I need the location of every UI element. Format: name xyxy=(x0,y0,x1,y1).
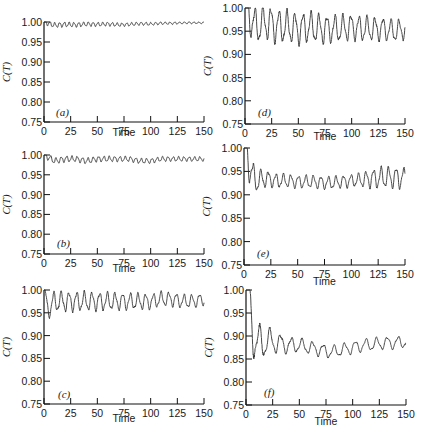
y-tick-label: 0.80 xyxy=(22,375,43,387)
y-tick-label: 1.00 xyxy=(222,142,243,154)
x-tick-label: 100 xyxy=(343,127,361,139)
y-tick-label: 0.85 xyxy=(223,72,244,84)
panel-label: (f) xyxy=(264,386,275,399)
y-axis-title: C(T) xyxy=(201,196,213,216)
y-tick-label: 0.80 xyxy=(22,96,43,108)
y-tick-label: 0.95 xyxy=(22,169,43,181)
y-tick-label: 0.80 xyxy=(223,95,244,107)
series-line xyxy=(245,8,405,47)
y-tick-label: 0.80 xyxy=(22,228,43,240)
x-tick-label: 125 xyxy=(169,257,187,269)
panel-label: (c) xyxy=(58,388,71,401)
x-tick-label: 0 xyxy=(41,407,47,419)
x-tick-label: 100 xyxy=(142,257,160,269)
y-tick-label: 0.75 xyxy=(224,399,245,411)
y-tick-label: 0.90 xyxy=(22,330,43,342)
x-tick-label: 150 xyxy=(195,407,213,419)
y-tick-label: 0.90 xyxy=(223,48,244,60)
panel-label: (e) xyxy=(257,247,270,260)
x-tick-label: 50 xyxy=(91,257,103,269)
y-tick-label: 0.75 xyxy=(222,259,243,271)
x-tick-label: 125 xyxy=(370,127,388,139)
y-tick-label: 1.00 xyxy=(22,16,43,28)
x-tick-label: 150 xyxy=(396,268,414,280)
y-tick-label: 0.95 xyxy=(224,307,245,319)
y-tick-label: 0.95 xyxy=(222,165,243,177)
y-tick-label: 0.90 xyxy=(222,189,243,201)
x-tick-label: 0 xyxy=(241,268,247,280)
y-tick-label: 0.75 xyxy=(22,248,43,260)
x-axis-title: Time xyxy=(313,275,336,287)
x-tick-label: 25 xyxy=(65,407,77,419)
y-tick-label: 1.00 xyxy=(223,2,244,14)
x-tick-label: 100 xyxy=(142,125,160,137)
x-tick-label: 0 xyxy=(41,125,47,137)
x-tick-label: 125 xyxy=(369,268,387,280)
x-axis-title: Time xyxy=(113,262,136,274)
y-tick-label: 0.95 xyxy=(223,25,244,37)
x-tick-label: 100 xyxy=(343,268,361,280)
y-axis-title: C(T) xyxy=(203,337,215,357)
y-tick-label: 0.90 xyxy=(22,56,43,68)
x-tick-label: 125 xyxy=(169,407,187,419)
y-axis-title: C(T) xyxy=(1,62,13,82)
x-tick-label: 150 xyxy=(396,127,414,139)
y-axis-title: C(T) xyxy=(202,56,214,76)
series-line xyxy=(44,22,204,27)
x-tick-label: 100 xyxy=(142,407,160,419)
x-axis-title: Time xyxy=(314,130,337,142)
x-tick-label: 25 xyxy=(65,125,77,137)
x-tick-label: 100 xyxy=(344,408,362,420)
y-tick-label: 1.00 xyxy=(22,284,43,296)
y-tick-label: 0.80 xyxy=(222,236,243,248)
x-tick-label: 125 xyxy=(371,408,389,420)
x-tick-label: 125 xyxy=(169,125,187,137)
series-line xyxy=(246,290,406,359)
x-tick-label: 25 xyxy=(265,268,277,280)
y-tick-label: 0.85 xyxy=(22,76,43,88)
figure: 0.750.800.850.900.951.000255075100125150… xyxy=(0,0,423,434)
series-line xyxy=(44,155,204,164)
y-tick-label: 0.85 xyxy=(22,208,43,220)
y-tick-label: 0.75 xyxy=(22,398,43,410)
x-tick-label: 50 xyxy=(91,407,103,419)
x-tick-label: 50 xyxy=(293,408,305,420)
x-tick-label: 50 xyxy=(292,268,304,280)
y-axis-title: C(T) xyxy=(1,194,13,214)
x-tick-label: 0 xyxy=(242,127,248,139)
x-tick-label: 25 xyxy=(65,257,77,269)
y-tick-label: 0.75 xyxy=(22,116,43,128)
x-axis-title: Time xyxy=(113,126,136,138)
series-line xyxy=(244,148,405,190)
y-tick-label: 0.90 xyxy=(22,189,43,201)
x-tick-label: 25 xyxy=(266,127,278,139)
y-tick-label: 0.85 xyxy=(22,352,43,364)
x-tick-label: 150 xyxy=(195,125,213,137)
x-tick-label: 50 xyxy=(292,127,304,139)
x-tick-label: 150 xyxy=(397,408,415,420)
panel-label: (b) xyxy=(57,237,70,250)
panel-label: (a) xyxy=(56,106,69,119)
y-tick-label: 0.80 xyxy=(224,376,245,388)
y-tick-label: 1.00 xyxy=(224,284,245,296)
y-tick-label: 0.85 xyxy=(222,212,243,224)
y-tick-label: 0.90 xyxy=(224,330,245,342)
y-tick-label: 0.85 xyxy=(224,353,245,365)
x-tick-label: 0 xyxy=(41,257,47,269)
y-axis-title: C(T) xyxy=(1,337,13,357)
x-tick-label: 25 xyxy=(267,408,279,420)
x-axis-title: Time xyxy=(113,412,136,424)
x-tick-label: 150 xyxy=(195,257,213,269)
y-tick-label: 0.75 xyxy=(223,118,244,130)
series-line xyxy=(44,290,204,319)
x-tick-label: 0 xyxy=(243,408,249,420)
y-tick-label: 0.95 xyxy=(22,36,43,48)
panel-label: (d) xyxy=(258,106,271,119)
x-tick-label: 50 xyxy=(91,125,103,137)
y-tick-label: 0.95 xyxy=(22,307,43,319)
x-axis-title: Time xyxy=(315,415,338,427)
y-tick-label: 1.00 xyxy=(22,149,43,161)
